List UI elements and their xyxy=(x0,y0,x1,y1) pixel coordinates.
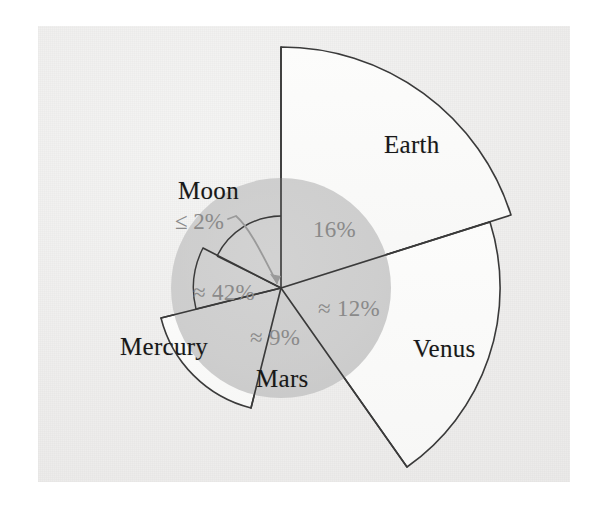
figure-root: Earth 16% Venus ≈ 12% Mars ≈ 9% Mercury … xyxy=(0,0,597,512)
sector-label-moon: Moon xyxy=(178,178,239,203)
percent-label-earth: 16% xyxy=(313,218,356,241)
percent-label-venus: ≈ 12% xyxy=(318,297,380,320)
percent-label-mars: ≈ 9% xyxy=(250,326,300,349)
sector-label-earth: Earth xyxy=(384,132,440,157)
sector-label-mars: Mars xyxy=(256,366,309,391)
sector-label-mercury: Mercury xyxy=(120,334,208,359)
percent-label-moon: ≤ 2% xyxy=(175,210,224,233)
percent-label-mercury: ≈ 42% xyxy=(193,281,255,304)
sector-label-venus: Venus xyxy=(413,336,476,361)
rose-chart-svg xyxy=(0,0,597,512)
